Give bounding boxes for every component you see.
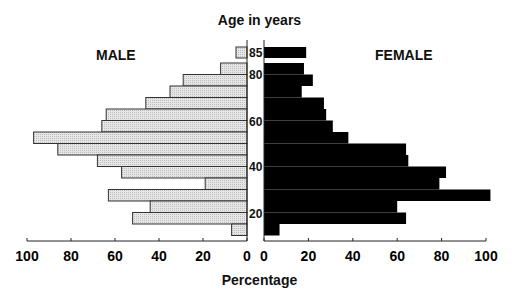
- x-tick-label: 60: [389, 248, 405, 264]
- age-tick-label: 60: [249, 115, 263, 129]
- male-bar-10-14: [232, 224, 247, 236]
- female-bar-60-64: [264, 109, 326, 121]
- x-tick-label: 80: [63, 248, 79, 264]
- population-pyramid: 0020204040606080801001008580604020: [0, 0, 519, 306]
- male-bar-40-44: [97, 155, 247, 167]
- female-bar-75-79: [264, 75, 313, 87]
- male-bars: [34, 47, 247, 236]
- x-tick-label: 40: [151, 248, 167, 264]
- age-tick-label: 20: [249, 207, 263, 221]
- female-bar-35-39: [264, 167, 446, 179]
- female-bar-65-69: [264, 98, 324, 110]
- male-bar-20-24: [150, 201, 247, 213]
- female-bar-30-34: [264, 178, 439, 190]
- male-bar-65-69: [146, 98, 247, 110]
- x-tick-label: 40: [345, 248, 361, 264]
- male-bar-55-59: [102, 121, 247, 133]
- age-tick-label: 85: [249, 46, 263, 60]
- male-bar-80-84: [221, 63, 247, 75]
- x-tick-label: 80: [434, 248, 450, 264]
- male-bar-45-49: [58, 144, 247, 156]
- male-bar-50-54: [34, 132, 247, 144]
- x-tick-label: 60: [107, 248, 123, 264]
- male-bar-15-19: [133, 213, 247, 225]
- female-bar-15-19: [264, 213, 406, 225]
- female-bar-25-29: [264, 190, 490, 202]
- x-tick-label: 0: [260, 248, 268, 264]
- female-bar-50-54: [264, 132, 348, 144]
- x-tick-label: 100: [15, 248, 39, 264]
- male-bar-30-34: [205, 178, 247, 190]
- x-tick-label: 0: [243, 248, 251, 264]
- x-axis-label: Percentage: [0, 272, 519, 288]
- age-tick-label: 40: [249, 160, 263, 174]
- female-bar-40-44: [264, 155, 408, 167]
- female-bar-85+: [264, 47, 306, 58]
- female-bar-45-49: [264, 144, 406, 156]
- x-tick-label: 100: [474, 248, 498, 264]
- female-bar-20-24: [264, 201, 397, 213]
- male-bar-60-64: [106, 109, 247, 121]
- female-bar-10-14: [264, 224, 280, 236]
- female-bar-55-59: [264, 121, 333, 133]
- x-tick-label: 20: [301, 248, 317, 264]
- male-bar-75-79: [183, 75, 247, 87]
- male-bar-35-39: [122, 167, 247, 179]
- age-tick-label: 80: [249, 68, 263, 82]
- male-bar-25-29: [108, 190, 247, 202]
- female-bar-70-74: [264, 86, 302, 98]
- male-bar-85+: [236, 47, 247, 58]
- male-bar-70-74: [170, 86, 247, 98]
- female-bars: [264, 47, 490, 236]
- x-tick-label: 20: [195, 248, 211, 264]
- female-bar-80-84: [264, 63, 304, 75]
